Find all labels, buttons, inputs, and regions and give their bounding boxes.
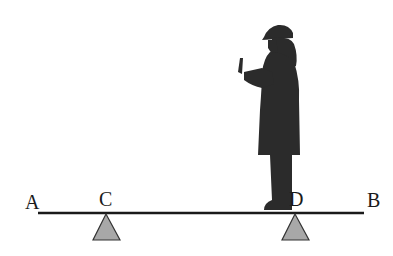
person-silhouette (238, 25, 300, 210)
label-c: C (99, 189, 112, 209)
diagram-canvas (0, 0, 393, 256)
support-triangle-d (282, 214, 309, 240)
label-b: B (367, 190, 380, 210)
label-d: D (289, 189, 303, 209)
label-a: A (25, 192, 39, 212)
support-triangle-c (93, 214, 120, 240)
